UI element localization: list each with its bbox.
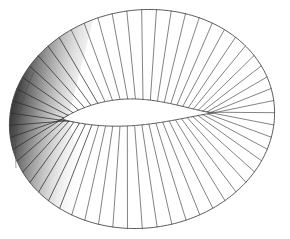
ruled-surface-figure [0,0,290,239]
generator-line [208,112,275,113]
generator-line [213,100,274,113]
generator-line [202,77,267,115]
inner-hole-fill [63,99,213,126]
generator-line [197,66,261,116]
generator-line [208,89,272,114]
figure-stage [0,0,290,239]
